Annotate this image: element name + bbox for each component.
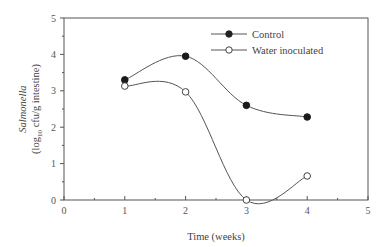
y-axis: 012345 [51,13,64,206]
line-chart: 012345 012345 Time (weeks) Salmonella (l… [0,0,386,247]
y-tick-label: 3 [51,85,56,96]
y-tick-label: 1 [51,158,56,169]
data-point [243,197,250,204]
x-tick-label: 2 [183,205,188,216]
series-line [125,81,307,204]
data-point [243,102,250,109]
x-tick-label: 5 [366,205,371,216]
filled-circle-icon [226,31,232,37]
series-line [125,56,307,117]
x-tick-label: 3 [244,205,249,216]
y-axis-unit: (log10 cfu/g intestine) [30,64,44,154]
series-markers [122,53,311,203]
x-axis: 012345 [62,196,371,216]
svg-text:Control: Control [252,29,284,40]
data-point [182,89,189,96]
data-point [304,114,311,121]
svg-text:Salmonella: Salmonella [17,85,28,132]
data-point [304,173,311,180]
x-tick-label: 1 [122,205,127,216]
legend-item-control: Control [211,29,284,40]
series-lines [125,56,307,204]
y-tick-label: 5 [51,13,56,24]
y-tick-label: 0 [51,195,56,206]
x-tick-label: 0 [62,205,67,216]
y-tick-label: 4 [51,49,56,60]
data-point [122,77,129,84]
svg-text:Water inoculated: Water inoculated [252,45,324,56]
x-axis-label: Time (weeks) [187,231,245,243]
data-point [122,83,129,90]
y-axis-label: Salmonella (log10 cfu/g intestine) [17,64,44,154]
data-point [182,53,189,60]
y-tick-label: 2 [51,122,56,133]
legend-item-water-inoculated: Water inoculated [211,45,324,56]
legend: Control Water inoculated [211,29,324,56]
open-circle-icon [226,47,232,53]
x-tick-label: 4 [305,205,310,216]
